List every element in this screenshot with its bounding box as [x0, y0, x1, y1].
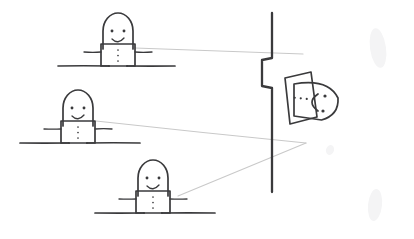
torso-dot-2	[152, 202, 154, 204]
sightline-bottom	[178, 143, 306, 196]
observer-top	[58, 13, 175, 66]
torso-dot-3	[117, 60, 119, 62]
wall-with-notch	[262, 13, 272, 192]
sightlines-group	[96, 48, 306, 196]
smile-mouth	[147, 185, 159, 189]
paper-smudges	[325, 27, 389, 222]
eye-dot-1	[111, 30, 114, 33]
hand-drawn-scene	[0, 0, 414, 239]
eye-dot-1	[71, 107, 74, 110]
panel-dot-2	[300, 97, 302, 99]
smile-mouth	[72, 115, 84, 119]
panel-dot-3	[306, 98, 308, 100]
eye-dot-2	[83, 107, 86, 110]
sketch-canvas	[0, 0, 414, 239]
smudge-top-right	[367, 27, 388, 69]
panel-dot-1	[294, 97, 296, 99]
eye-dot-2	[158, 177, 161, 180]
eye-dot-1	[323, 94, 326, 97]
torso-dot-2	[117, 55, 119, 57]
torso-dot-2	[77, 132, 79, 134]
smile-mouth	[112, 38, 124, 42]
torso-dot-3	[152, 207, 154, 209]
observer-middle	[20, 90, 140, 143]
smudge-mid-right	[325, 144, 336, 156]
eye-dot-2	[321, 109, 324, 112]
smudge-bottom-right	[366, 188, 383, 221]
torso-dot-1	[77, 126, 79, 128]
observer-bottom	[95, 160, 215, 213]
torso-dot-1	[117, 49, 119, 51]
sightline-middle	[96, 121, 306, 143]
wall-outline	[262, 13, 272, 192]
eye-dot-2	[123, 30, 126, 33]
torso-dot-1	[152, 196, 154, 198]
torso-dot-3	[77, 137, 79, 139]
eye-dot-1	[146, 177, 149, 180]
subject-behind-wall	[285, 72, 338, 124]
sightline-top	[135, 48, 303, 54]
